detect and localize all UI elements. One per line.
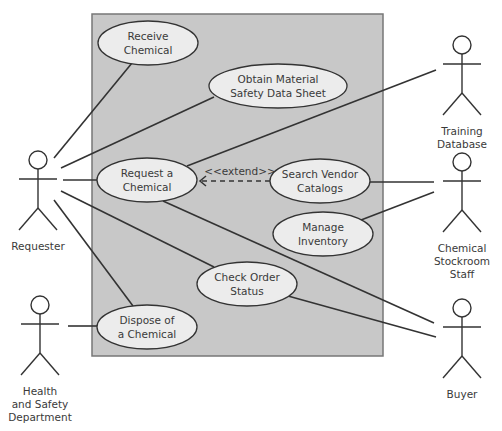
use-case-label: Receive (127, 30, 168, 42)
actor-head-icon (29, 151, 47, 169)
actor-label: Training (440, 125, 482, 137)
actor-leg-icon (462, 93, 481, 115)
use-case-receive[interactable]: ReceiveChemical (98, 21, 198, 65)
use-case-dispose[interactable]: Dispose ofa Chemical (97, 305, 197, 349)
use-case-ellipse (197, 262, 297, 306)
use-case-request[interactable]: Request aChemical (97, 158, 197, 202)
use-case-status[interactable]: Check OrderStatus (197, 262, 297, 306)
use-case-label: Check Order (214, 271, 280, 283)
use-case-label: Chemical (123, 181, 172, 193)
use-case-search[interactable]: Search VendorCatalogs (270, 159, 370, 203)
actor-label: Buyer (447, 388, 479, 400)
actor-leg-icon (40, 353, 59, 375)
use-case-label: Inventory (298, 235, 348, 247)
actor-label: and Safety (12, 398, 69, 410)
use-case-diagram: <<extend>> ReceiveChemicalObtain Materia… (0, 0, 502, 431)
actor-label: Health (23, 385, 57, 397)
use-case-label: Obtain Material (237, 73, 318, 85)
use-case-label: Search Vendor (282, 168, 359, 180)
actor-stockroom[interactable]: ChemicalStockroomStaff (434, 153, 490, 280)
use-case-ellipse (273, 212, 373, 256)
use-case-ellipse (97, 158, 197, 202)
actor-head-icon (453, 153, 471, 171)
actor-health-safety[interactable]: Healthand SafetyDepartment (8, 296, 72, 423)
actor-head-icon (31, 296, 49, 314)
use-case-label: Chemical (124, 44, 173, 56)
actor-label: Staff (450, 268, 475, 280)
actor-leg-icon (443, 210, 462, 232)
actor-requester[interactable]: Requester (11, 151, 65, 252)
use-case-ellipse (98, 21, 198, 65)
actor-buyer[interactable]: Buyer (443, 299, 481, 400)
use-case-label: Dispose of (120, 314, 175, 326)
actor-label: Stockroom (434, 255, 490, 267)
use-case-label: Safety Data Sheet (230, 87, 326, 99)
use-case-label: Manage (302, 221, 344, 233)
use-case-label: a Chemical (118, 328, 177, 340)
use-case-label: Catalogs (297, 182, 343, 194)
actor-leg-icon (462, 210, 481, 232)
actor-label: Department (8, 411, 72, 423)
actor-label: Chemical (438, 242, 487, 254)
actor-leg-icon (38, 208, 57, 230)
use-case-ellipse (97, 305, 197, 349)
actor-label: Database (437, 138, 487, 150)
use-case-ellipse (270, 159, 370, 203)
actor-leg-icon (21, 353, 40, 375)
use-case-label: Status (230, 285, 263, 297)
actor-head-icon (453, 299, 471, 317)
extend-label: <<extend>> (204, 165, 276, 177)
use-case-msds[interactable]: Obtain MaterialSafety Data Sheet (209, 64, 347, 108)
actor-leg-icon (443, 356, 462, 378)
use-case-inventory[interactable]: ManageInventory (273, 212, 373, 256)
actor-leg-icon (443, 93, 462, 115)
actor-head-icon (453, 36, 471, 54)
actor-leg-icon (462, 356, 481, 378)
use-case-ellipse (209, 64, 347, 108)
use-case-label: Request a (121, 167, 173, 179)
actor-leg-icon (19, 208, 38, 230)
actor-training-db[interactable]: TrainingDatabase (437, 36, 487, 150)
actor-label: Requester (11, 240, 65, 252)
